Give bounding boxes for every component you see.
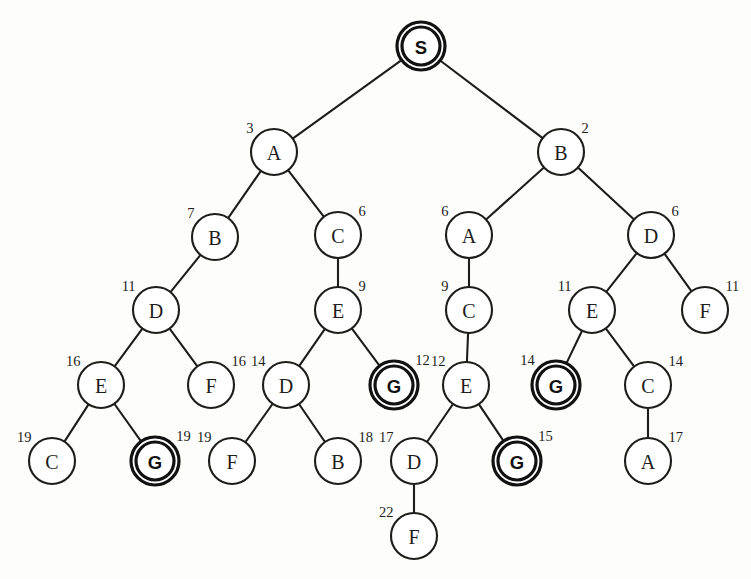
- tree-node[interactable]: F22: [379, 504, 437, 559]
- node-label: D: [407, 451, 421, 473]
- node-cost-label: 19: [176, 428, 191, 444]
- tree-node[interactable]: D14: [251, 353, 309, 408]
- node-label: E: [332, 300, 344, 322]
- tree-edge: [467, 333, 468, 362]
- tree-edge: [486, 167, 544, 219]
- tree-edge: [566, 331, 582, 364]
- tree-node[interactable]: E16: [66, 353, 124, 408]
- tree-edge: [64, 404, 88, 441]
- node-cost-label: 15: [538, 428, 553, 444]
- node-cost-label: 11: [122, 278, 136, 294]
- tree-node[interactable]: C9: [441, 278, 492, 333]
- tree-edge: [664, 254, 691, 292]
- node-cost-label: 9: [441, 278, 448, 294]
- node-label: A: [641, 451, 656, 473]
- tree-node[interactable]: F19: [197, 429, 255, 484]
- tree-edge: [228, 171, 261, 218]
- node-label: G: [148, 452, 162, 473]
- tree-node[interactable]: D17: [379, 429, 437, 484]
- tree-node[interactable]: E9: [315, 278, 366, 333]
- node-cost-label: 6: [358, 203, 365, 219]
- tree-edge: [606, 328, 634, 366]
- node-cost-label: 22: [379, 504, 394, 520]
- node-cost-label: 12: [431, 353, 446, 369]
- tree-node[interactable]: C14: [625, 353, 684, 408]
- node-cost-label: 2: [581, 120, 588, 136]
- tree-node[interactable]: B18: [315, 429, 373, 484]
- tree-edge: [170, 329, 198, 367]
- tree-edge: [115, 329, 143, 367]
- tree-edge: [578, 168, 634, 220]
- tree-edge: [299, 329, 325, 366]
- node-label: E: [586, 300, 598, 322]
- node-cost-label: 12: [415, 352, 430, 368]
- node-cost-label: 6: [671, 203, 678, 219]
- node-cost-label: 14: [251, 353, 266, 369]
- tree-node[interactable]: A6: [441, 203, 492, 258]
- goal-node[interactable]: G14: [520, 352, 580, 409]
- node-label: C: [45, 451, 58, 473]
- tree-edge: [479, 404, 504, 441]
- nodes-layer: SA3B2B7C6A6D6D11E9C9E11F11E16F16D14G12E1…: [17, 22, 739, 559]
- node-cost-label: 19: [197, 429, 212, 445]
- node-cost-label: 17: [668, 429, 683, 445]
- tree-edge: [170, 255, 200, 292]
- tree-node[interactable]: C6: [315, 203, 366, 258]
- node-label: S: [415, 37, 427, 58]
- node-cost-label: 14: [668, 353, 683, 369]
- node-label: D: [279, 375, 293, 397]
- node-label: E: [95, 375, 107, 397]
- goal-node[interactable]: G19: [131, 428, 191, 485]
- goal-node[interactable]: G15: [493, 428, 553, 485]
- node-label: F: [226, 451, 237, 473]
- node-label: E: [460, 375, 472, 397]
- node-label: C: [641, 375, 654, 397]
- node-label: D: [644, 225, 658, 247]
- node-cost-label: 14: [520, 352, 535, 368]
- node-label: G: [510, 452, 524, 473]
- tree-node[interactable]: A3: [246, 120, 297, 175]
- node-cost-label: 3: [246, 120, 253, 136]
- tree-node[interactable]: B7: [187, 205, 238, 260]
- node-label: A: [267, 142, 282, 164]
- search-tree-figure: SA3B2B7C6A6D6D11E9C9E11F11E16F16D14G12E1…: [0, 0, 751, 579]
- tree-node[interactable]: B2: [538, 120, 589, 175]
- node-label: F: [205, 375, 216, 397]
- node-label: F: [408, 526, 419, 548]
- tree-node[interactable]: F11: [682, 278, 739, 333]
- tree-edge: [427, 404, 453, 442]
- tree-canvas: SA3B2B7C6A6D6D11E9C9E11F11E16F16D14G12E1…: [0, 0, 751, 579]
- tree-node[interactable]: E11: [558, 278, 615, 333]
- tree-node[interactable]: E12: [431, 353, 489, 408]
- tree-node[interactable]: A17: [625, 429, 683, 484]
- tree-edge: [245, 404, 272, 443]
- node-cost-label: 16: [231, 353, 246, 369]
- node-cost-label: 7: [187, 205, 194, 221]
- node-label: G: [549, 376, 563, 397]
- node-cost-label: 18: [358, 429, 373, 445]
- tree-edge: [299, 404, 325, 442]
- tree-node[interactable]: F16: [188, 353, 246, 408]
- node-cost-label: 11: [558, 278, 572, 294]
- goal-node[interactable]: G12: [370, 352, 430, 409]
- goal-node[interactable]: S: [397, 22, 445, 70]
- node-label: F: [699, 300, 710, 322]
- node-label: B: [554, 142, 567, 164]
- node-label: C: [331, 225, 344, 247]
- node-label: D: [149, 300, 163, 322]
- node-cost-label: 6: [441, 203, 448, 219]
- tree-edge: [288, 170, 324, 217]
- tree-edge: [114, 404, 141, 442]
- tree-node[interactable]: D6: [628, 203, 679, 258]
- node-label: C: [462, 300, 475, 322]
- node-cost-label: 9: [358, 278, 365, 294]
- node-cost-label: 17: [379, 429, 394, 445]
- node-label: B: [331, 451, 344, 473]
- node-label: A: [462, 225, 477, 247]
- tree-edge: [352, 328, 380, 365]
- node-label: G: [387, 376, 401, 397]
- tree-node[interactable]: D11: [122, 278, 179, 333]
- tree-edge: [440, 60, 543, 138]
- node-cost-label: 16: [66, 353, 81, 369]
- node-label: B: [208, 227, 221, 249]
